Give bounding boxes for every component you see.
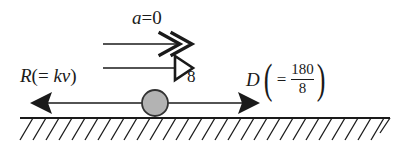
velocity-arrow xyxy=(103,56,193,80)
particle-ball xyxy=(142,90,168,116)
acceleration-arrow xyxy=(103,33,192,55)
diagram-artwork xyxy=(0,0,409,153)
physics-force-diagram: a=0 8 R(= kv) D ( = 180 8 ) xyxy=(0,0,409,153)
ground-hatching xyxy=(20,118,390,140)
